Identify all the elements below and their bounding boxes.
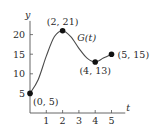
series-line-gt [30,31,112,94]
data-label: (5, 15) [118,49,150,60]
x-tick-label: 1 [43,115,49,126]
x-tick-label: 5 [108,115,114,126]
data-point [92,59,98,65]
x-tick-label: 3 [76,115,82,126]
chart: ty123455101520G(t)(0, 5)(2, 21)(4, 13)(5… [0,0,154,138]
y-tick-label: 20 [13,29,25,40]
labels-layer: ty123455101520G(t)(0, 5)(2, 21)(4, 13)(5… [13,9,149,126]
y-axis-label: y [24,9,31,20]
curve-layer [30,31,112,94]
data-point [109,51,115,57]
x-tick-label: 4 [92,115,98,126]
data-label: (0, 5) [33,96,59,107]
x-tick-label: 2 [60,115,66,126]
x-axis-label: t [126,102,130,113]
data-label: (2, 21) [47,16,79,27]
data-point [60,28,66,34]
curve-label: G(t) [77,32,96,43]
data-label: (4, 13) [79,65,111,76]
data-point [27,91,33,97]
y-tick-label: 5 [19,88,25,99]
y-tick-label: 15 [13,49,25,60]
points-layer [27,28,114,96]
y-tick-label: 10 [13,68,25,79]
